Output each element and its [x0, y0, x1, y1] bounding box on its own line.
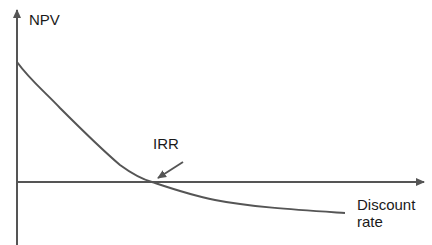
irr-pointer-arrow: [158, 162, 183, 178]
irr-annotation: IRR: [153, 135, 179, 152]
x-axis-label-line2: rate: [357, 213, 427, 230]
npv-curve: [17, 62, 345, 213]
y-axis-label: NPV: [29, 11, 60, 28]
x-axis-label-line1: Discount: [357, 196, 427, 213]
x-axis-label: Discount rate: [357, 196, 427, 230]
